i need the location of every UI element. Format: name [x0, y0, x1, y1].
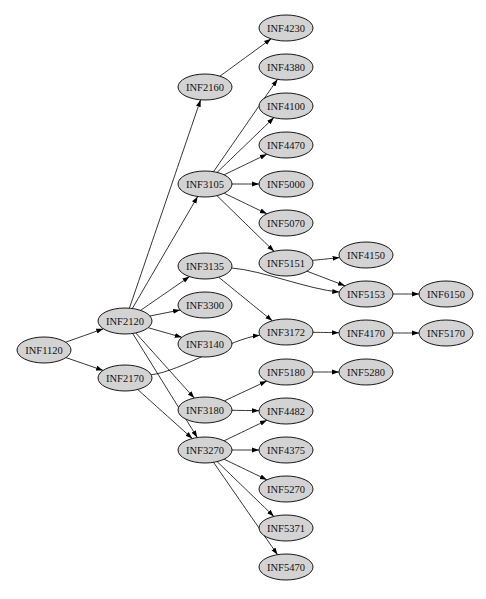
- edge-inf3270-to-inf5470: [214, 462, 278, 554]
- node-label: INF4230: [267, 23, 305, 34]
- node-inf5280[interactable]: INF5280: [339, 359, 393, 385]
- node-label: INF3180: [186, 405, 224, 416]
- node-inf4150[interactable]: INF4150: [339, 242, 393, 268]
- node-label: INF6150: [427, 289, 465, 300]
- node-inf4470[interactable]: INF4470: [259, 132, 313, 158]
- node-label: INF5153: [347, 289, 385, 300]
- node-label: INF4170: [347, 328, 385, 339]
- edge-inf3270-to-inf5270: [224, 459, 267, 480]
- node-label: INF4470: [267, 140, 305, 151]
- edge-inf1120-to-inf2170: [66, 358, 103, 371]
- node-inf4482[interactable]: INF4482: [259, 398, 313, 424]
- node-label: INF2120: [106, 316, 144, 327]
- node-inf3140[interactable]: INF3140: [178, 331, 232, 357]
- node-inf5151[interactable]: INF5151: [259, 250, 313, 276]
- edge-inf3105-to-inf4470: [224, 154, 267, 175]
- node-inf4170[interactable]: INF4170: [339, 320, 393, 346]
- node-inf3135[interactable]: INF3135: [178, 253, 232, 279]
- node-label: INF3135: [186, 261, 224, 272]
- node-label: INF4380: [267, 62, 305, 73]
- edge-inf3180-to-inf5180: [224, 381, 266, 401]
- node-label: INF1120: [25, 345, 63, 356]
- node-label: INF5151: [267, 258, 305, 269]
- node-label: INF4375: [267, 445, 305, 456]
- node-inf5180[interactable]: INF5180: [259, 359, 313, 385]
- node-inf3270[interactable]: INF3270: [178, 437, 232, 463]
- node-label: INF3105: [186, 179, 224, 190]
- node-inf5070[interactable]: INF5070: [259, 210, 313, 236]
- node-inf5170[interactable]: INF5170: [419, 320, 473, 346]
- edge-inf3105-to-inf5070: [224, 193, 267, 214]
- node-inf4100[interactable]: INF4100: [259, 93, 313, 119]
- node-label: INF5070: [267, 218, 305, 229]
- node-label: INF5470: [267, 562, 305, 573]
- node-inf5270[interactable]: INF5270: [259, 476, 313, 502]
- node-label: INF5371: [267, 523, 305, 534]
- edge-inf2120-to-inf3105: [132, 197, 197, 309]
- node-inf4375[interactable]: INF4375: [259, 437, 313, 463]
- node-inf5470[interactable]: INF5470: [259, 554, 313, 580]
- node-inf2170[interactable]: INF2170: [98, 365, 152, 391]
- edge-inf3270-to-inf4482: [224, 420, 267, 441]
- edge-inf2120-to-inf3140: [148, 328, 182, 338]
- node-inf2160[interactable]: INF2160: [178, 74, 232, 100]
- nodes-layer: INF1120INF2120INF2170INF2160INF3105INF31…: [17, 15, 473, 580]
- node-label: INF3140: [186, 339, 224, 350]
- node-label: INF2170: [106, 373, 144, 384]
- node-label: INF5280: [347, 367, 385, 378]
- course-dependency-graph: INF1120INF2120INF2170INF2160INF3105INF31…: [0, 0, 486, 599]
- node-inf3300[interactable]: INF3300: [178, 292, 232, 318]
- node-inf5153[interactable]: INF5153: [339, 281, 393, 307]
- node-inf5371[interactable]: INF5371: [259, 515, 313, 541]
- node-inf2120[interactable]: INF2120: [98, 308, 152, 334]
- node-inf3180[interactable]: INF3180: [178, 397, 232, 423]
- node-label: INF5000: [267, 179, 305, 190]
- edge-inf5151-to-inf4150: [312, 258, 339, 261]
- node-label: INF5180: [267, 367, 305, 378]
- node-inf1120[interactable]: INF1120: [17, 337, 71, 363]
- node-label: INF3172: [267, 327, 305, 338]
- node-inf3172[interactable]: INF3172: [259, 319, 313, 345]
- edge-inf5151-to-inf5153: [307, 271, 345, 286]
- node-label: INF4100: [267, 101, 305, 112]
- node-inf5000[interactable]: INF5000: [259, 171, 313, 197]
- node-label: INF5170: [427, 328, 465, 339]
- edge-inf2120-to-inf3300: [150, 310, 180, 316]
- node-label: INF3300: [186, 300, 224, 311]
- node-label: INF2160: [186, 82, 224, 93]
- node-label: INF5270: [267, 484, 305, 495]
- node-inf4230[interactable]: INF4230: [259, 15, 313, 41]
- node-inf3105[interactable]: INF3105: [178, 171, 232, 197]
- node-label: INF4150: [347, 250, 385, 261]
- node-label: INF4482: [267, 406, 305, 417]
- node-label: INF3270: [186, 445, 224, 456]
- edge-inf1120-to-inf2120: [66, 329, 104, 342]
- node-inf4380[interactable]: INF4380: [259, 54, 313, 80]
- node-inf6150[interactable]: INF6150: [419, 281, 473, 307]
